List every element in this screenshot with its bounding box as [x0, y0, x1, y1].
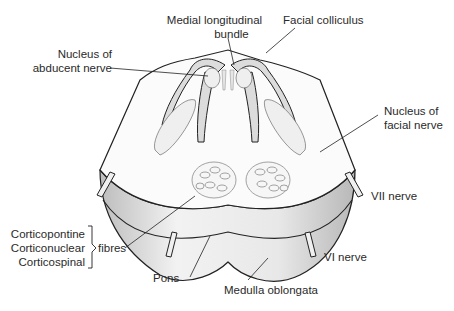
label-nucleus-facial: Nucleus of facial nerve — [384, 104, 443, 132]
label-nucleus-abducent: Nucleus of abducent nerve — [20, 47, 112, 75]
label-medulla: Medulla oblongata — [224, 283, 318, 297]
fibres-bracket — [88, 226, 96, 268]
label-line: Corticopontine — [5, 227, 85, 241]
label-fibres-group: Corticopontine Corticonuclear Corticospi… — [5, 227, 85, 269]
label-vi-nerve: VI nerve — [324, 250, 367, 264]
label-pons: Pons — [153, 271, 179, 285]
label-line: Nucleus of — [384, 104, 443, 118]
label-line: Nucleus of — [20, 47, 112, 61]
label-facial-colliculus: Facial colliculus — [283, 13, 364, 27]
label-line: bundle — [137, 27, 292, 41]
label-line: Corticospinal — [5, 255, 85, 269]
label-line: abducent nerve — [20, 61, 112, 75]
label-medial-longitudinal-bundle: Medial longitudinal bundle — [137, 13, 292, 41]
label-line: facial nerve — [384, 118, 443, 132]
label-line: Corticonuclear — [5, 241, 85, 255]
label-line: Medial longitudinal — [137, 13, 292, 27]
label-vii-nerve: VII nerve — [371, 189, 417, 203]
label-fibres: fibres — [98, 241, 126, 255]
